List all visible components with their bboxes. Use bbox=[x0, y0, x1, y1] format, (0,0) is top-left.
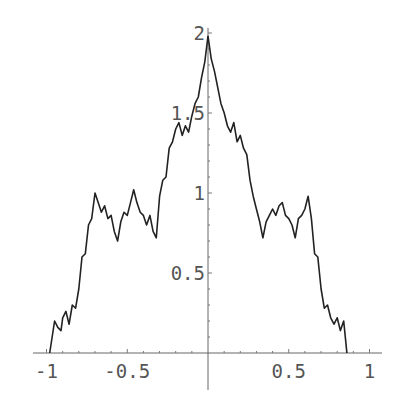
y-tick-label: 1 bbox=[194, 182, 205, 204]
chart-plot: -1-0.50.510.511.52 bbox=[0, 0, 405, 400]
x-tick-label: 0.5 bbox=[272, 360, 306, 382]
x-tick-label: 1 bbox=[364, 360, 375, 382]
tick-labels: -1-0.50.510.511.52 bbox=[35, 22, 375, 382]
axes bbox=[33, 28, 382, 390]
y-tick-label: 1.5 bbox=[171, 102, 205, 124]
x-tick-label: -1 bbox=[35, 360, 58, 382]
y-tick-label: 0.5 bbox=[171, 262, 205, 284]
x-tick-label: -0.5 bbox=[104, 360, 150, 382]
y-tick-label: 2 bbox=[194, 22, 205, 44]
